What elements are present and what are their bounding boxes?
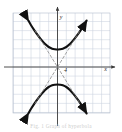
plot-background <box>13 13 110 113</box>
hyperbola-figure: yx4 Fig. 1 Graph of hyperbola <box>0 0 122 132</box>
hyperbola-plot: yx4 <box>0 0 122 132</box>
axis-annotation-y: y <box>59 14 63 20</box>
figure-caption: Fig. 1 Graph of hyperbola <box>0 120 122 132</box>
axis-annotation-x: x <box>103 66 107 72</box>
axis-annotation-4: 4 <box>64 67 67 73</box>
